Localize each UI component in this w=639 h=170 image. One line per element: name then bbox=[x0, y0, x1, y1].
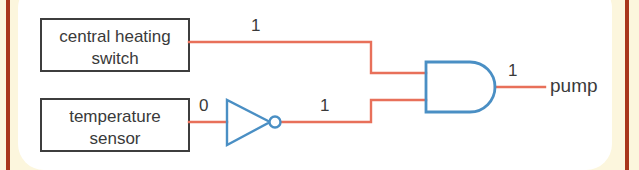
input-label-line2: sensor bbox=[41, 128, 189, 150]
input-box-label-temperature-sensor: temperature sensor bbox=[41, 106, 189, 150]
input-label-line1: temperature bbox=[41, 106, 189, 128]
signal-label-top-wire: 1 bbox=[251, 16, 260, 36]
wire-not-to-and bbox=[281, 100, 426, 122]
signal-label-sensor-wire: 0 bbox=[199, 96, 208, 116]
input-label-line1: central heating bbox=[41, 26, 189, 48]
signal-label-not-output-wire: 1 bbox=[320, 96, 329, 116]
input-box-label-central-heating-switch: central heating switch bbox=[41, 26, 189, 70]
logic-circuit-figure: central heating switch temperature senso… bbox=[0, 0, 639, 170]
not-gate-bubble-icon bbox=[270, 117, 281, 128]
and-gate-body bbox=[426, 62, 495, 112]
output-label-pump: pump bbox=[550, 76, 598, 96]
wire-switch-to-and bbox=[189, 42, 426, 73]
not-gate-triangle bbox=[227, 100, 270, 145]
input-label-line2: switch bbox=[41, 48, 189, 70]
signal-label-gate-output-wire: 1 bbox=[508, 61, 517, 81]
